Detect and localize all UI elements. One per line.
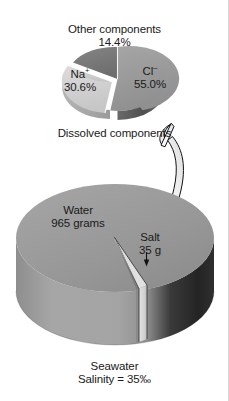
figure-caption-line1: Seawater xyxy=(91,360,139,372)
pie-label-sodium-charge: + xyxy=(85,66,89,75)
pie-label-chloride-value: 55.0% xyxy=(134,78,166,90)
cylinder-label-salt: Salt 35 g xyxy=(122,231,178,257)
pie-label-other-components: Other components 14.4% xyxy=(0,23,229,49)
pie-label-other-components-value: 14.4% xyxy=(98,36,130,48)
pie-label-sodium: Na+ 30.6% xyxy=(46,64,114,94)
seawater-composition-figure: Other components 14.4% Na+ 30.6% Cl– 55.… xyxy=(0,0,229,401)
cylinder-label-water: Water 965 grams xyxy=(22,204,134,230)
cylinder-label-salt-name: Salt xyxy=(140,231,159,243)
pie-label-sodium-name: Na xyxy=(71,68,86,80)
figure-caption-line2: Salinity = 35‰ xyxy=(78,373,151,385)
pie-label-sodium-value: 30.6% xyxy=(64,81,96,93)
cylinder-label-water-value: 965 grams xyxy=(51,217,104,229)
figure-caption: Seawater Salinity = 35‰ xyxy=(0,360,229,386)
cylinder-label-salt-value: 35 g xyxy=(139,244,161,256)
pie-label-other-components-name: Other components xyxy=(68,23,161,35)
pie-label-chloride-charge: – xyxy=(153,63,157,72)
pie-caption: Dissolved components xyxy=(0,127,229,140)
cylinder-label-water-name: Water xyxy=(63,204,93,216)
pie-label-chloride-name: Cl xyxy=(143,65,154,77)
pie-label-chloride: Cl– 55.0% xyxy=(116,61,184,91)
pie-chart-graphic xyxy=(0,0,229,401)
